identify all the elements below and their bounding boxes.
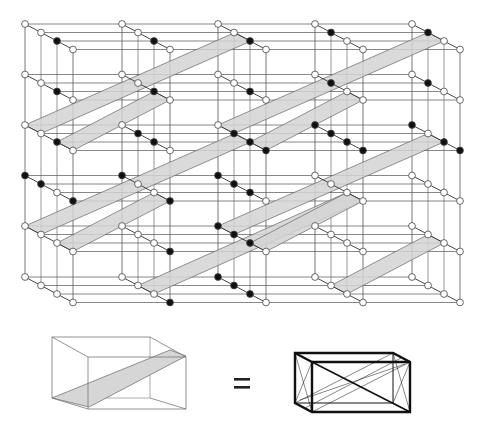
- hollow-node: [360, 198, 367, 205]
- hollow-node: [344, 189, 351, 196]
- filled-node: [215, 274, 222, 281]
- hollow-node: [215, 71, 222, 78]
- hollow-node: [54, 291, 61, 298]
- filled-node: [247, 189, 254, 196]
- hollow-node: [263, 46, 270, 53]
- hollow-node: [457, 198, 464, 205]
- filled-node: [247, 88, 254, 95]
- hollow-node: [119, 223, 126, 230]
- hollow-node: [441, 189, 448, 196]
- filled-node: [151, 38, 158, 45]
- hollow-node: [54, 189, 61, 196]
- hollow-node: [425, 282, 432, 289]
- legend-bold-box: [295, 353, 410, 412]
- hollow-node: [119, 71, 126, 78]
- hollow-node: [38, 282, 45, 289]
- filled-node: [119, 172, 126, 179]
- filled-node: [22, 172, 29, 179]
- hollow-node: [441, 291, 448, 298]
- hollow-node: [119, 21, 126, 28]
- filled-node: [247, 38, 254, 45]
- hollow-node: [328, 282, 335, 289]
- hollow-node: [425, 231, 432, 238]
- hollow-node: [231, 80, 238, 87]
- hollow-node: [70, 299, 77, 306]
- filled-node: [441, 139, 448, 146]
- hollow-node: [344, 88, 351, 95]
- hollow-node: [263, 248, 270, 255]
- hollow-node: [167, 97, 174, 104]
- hollow-node: [344, 240, 351, 247]
- chain-edge: [412, 277, 460, 303]
- hollow-node: [425, 130, 432, 137]
- hollow-node: [167, 147, 174, 154]
- hollow-node: [263, 299, 270, 306]
- filled-node: [328, 29, 335, 36]
- filled-node: [215, 172, 222, 179]
- hollow-node: [360, 97, 367, 104]
- hollow-node: [70, 46, 77, 53]
- filled-node: [167, 248, 174, 255]
- hollow-node: [344, 291, 351, 298]
- filled-node: [247, 240, 254, 247]
- filled-node: [167, 299, 174, 306]
- hollow-node: [135, 29, 142, 36]
- filled-node: [457, 147, 464, 154]
- hollow-node: [215, 21, 222, 28]
- hollow-node: [151, 189, 158, 196]
- filled-node: [328, 80, 335, 87]
- lattice-diagram: [0, 0, 484, 430]
- filled-node: [247, 139, 254, 146]
- hollow-node: [441, 240, 448, 247]
- filled-node: [409, 122, 416, 129]
- filled-node: [425, 80, 432, 87]
- hollow-node: [328, 181, 335, 188]
- filled-node: [231, 181, 238, 188]
- hollow-node: [135, 80, 142, 87]
- hollow-node: [151, 291, 158, 298]
- hollow-node: [38, 29, 45, 36]
- chain-edge: [218, 176, 266, 202]
- legend-shaded-cell: [52, 337, 186, 409]
- chain-edge: [412, 75, 460, 101]
- hollow-node: [22, 122, 29, 129]
- hollow-node: [151, 240, 158, 247]
- hollow-node: [360, 299, 367, 306]
- filled-node: [328, 130, 335, 137]
- hollow-node: [215, 122, 222, 129]
- hollow-node: [22, 223, 29, 230]
- hollow-node: [312, 274, 319, 281]
- chain-edge: [25, 176, 73, 202]
- filled-node: [54, 139, 61, 146]
- hollow-node: [70, 147, 77, 154]
- hollow-node: [409, 71, 416, 78]
- hollow-node: [409, 21, 416, 28]
- filled-node: [54, 88, 61, 95]
- filled-node: [70, 198, 77, 205]
- hollow-node: [328, 231, 335, 238]
- filled-node: [247, 291, 254, 298]
- hollow-node: [312, 21, 319, 28]
- hollow-node: [409, 223, 416, 230]
- hollow-node: [231, 29, 238, 36]
- chain-edge: [218, 277, 266, 303]
- filled-node: [135, 130, 142, 137]
- filled-node: [54, 38, 61, 45]
- chain-edge: [412, 176, 460, 202]
- hollow-node: [457, 97, 464, 104]
- filled-node: [344, 139, 351, 146]
- hollow-node: [22, 274, 29, 281]
- hollow-node: [70, 97, 77, 104]
- chain-edge: [218, 75, 266, 101]
- chain-edge: [122, 226, 170, 252]
- hollow-node: [425, 181, 432, 188]
- hollow-node: [360, 248, 367, 255]
- filled-node: [38, 181, 45, 188]
- hollow-node: [312, 223, 319, 230]
- hollow-node: [54, 240, 61, 247]
- chain-edge: [25, 277, 73, 303]
- hollow-node: [70, 248, 77, 255]
- chain-edge: [315, 125, 363, 151]
- hollow-node: [38, 130, 45, 137]
- hollow-node: [344, 38, 351, 45]
